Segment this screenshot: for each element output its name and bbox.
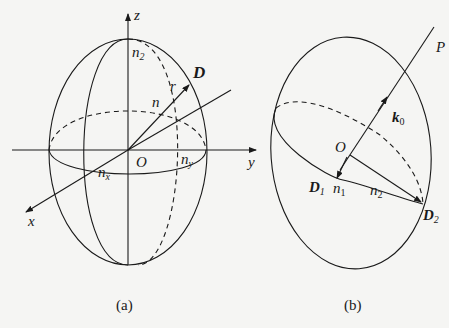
caption-b: (b) bbox=[344, 298, 362, 313]
x-axis bbox=[26, 150, 128, 212]
k0-arrow bbox=[378, 97, 387, 111]
figure-b-drawing bbox=[263, 27, 439, 274]
n2-label-b: n2 bbox=[370, 183, 383, 200]
r-label: r bbox=[170, 79, 176, 94]
x-axis-label: x bbox=[28, 214, 35, 229]
d2-label: D2 bbox=[423, 208, 439, 225]
d2-vector bbox=[350, 155, 421, 202]
diagram-svg bbox=[0, 0, 449, 328]
p-label: P bbox=[436, 40, 445, 55]
ny-label: ny bbox=[181, 152, 193, 169]
meridian-front bbox=[84, 39, 128, 265]
origin-label-b: O bbox=[335, 140, 346, 155]
n-label: n bbox=[152, 95, 160, 110]
d1-vector bbox=[337, 157, 347, 178]
d-vector-label: D bbox=[193, 64, 205, 81]
d1-label: D1 bbox=[309, 180, 325, 197]
z-axis-label: z bbox=[134, 8, 140, 23]
origin-label-a: O bbox=[136, 155, 147, 170]
index-ellipsoid-figure: z n2 D r n O ny y nx x (a) P k0 O D1 n1 … bbox=[0, 0, 449, 328]
k0-label: k0 bbox=[392, 110, 405, 127]
caption-a: (a) bbox=[116, 298, 133, 313]
meridian-back bbox=[128, 39, 178, 265]
y-axis-label: y bbox=[248, 155, 255, 170]
n2-label-a: n2 bbox=[132, 45, 145, 62]
nx-label: nx bbox=[98, 165, 110, 182]
plane-line bbox=[128, 90, 231, 150]
n1-label: n1 bbox=[333, 181, 346, 198]
